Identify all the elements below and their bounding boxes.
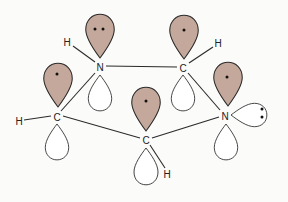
electron-n1-a bbox=[94, 28, 97, 31]
atom-c4: C bbox=[142, 135, 149, 146]
pyrazole-orbital-diagram: N C N C C H H H H bbox=[0, 0, 288, 202]
atom-c5: C bbox=[53, 112, 60, 123]
bond-c2-h2 bbox=[189, 47, 213, 63]
electron-n1-b bbox=[102, 28, 105, 31]
upper-lobe-n1 bbox=[86, 14, 115, 58]
upper-lobe-c5 bbox=[44, 63, 73, 107]
atom-n3: N bbox=[221, 111, 228, 122]
electron-c2 bbox=[183, 29, 186, 32]
electron-n3 bbox=[226, 76, 229, 79]
lower-lobe-c4 bbox=[134, 148, 158, 185]
lone-pair-lobe-n3 bbox=[231, 103, 267, 126]
bond-n3-c4 bbox=[152, 117, 219, 138]
electron-c5 bbox=[56, 73, 59, 76]
electron-c4 bbox=[145, 100, 148, 103]
lower-lobe-c2 bbox=[171, 75, 194, 111]
hydrogen-h2: H bbox=[214, 38, 221, 49]
lower-lobe-c5 bbox=[45, 124, 68, 160]
lone-pair-electron-a bbox=[261, 108, 264, 111]
lone-pair-electron-b bbox=[261, 116, 264, 119]
upper-lobes bbox=[44, 14, 243, 131]
bond-n1-h1 bbox=[73, 46, 95, 62]
upper-lobe-c4 bbox=[132, 87, 161, 131]
lower-lobe-n1 bbox=[88, 75, 111, 111]
atom-n1: N bbox=[96, 62, 103, 73]
bond-c4-c5 bbox=[63, 116, 140, 138]
hydrogen-h4: H bbox=[163, 169, 170, 180]
hydrogen-h5: H bbox=[15, 116, 22, 127]
hydrogen-h1: H bbox=[63, 37, 70, 48]
lower-lobe-n3 bbox=[214, 124, 237, 160]
bond-n1-c2 bbox=[106, 66, 177, 67]
bond-c5-h5 bbox=[24, 116, 51, 120]
atom-c2: C bbox=[179, 63, 186, 74]
upper-lobe-n3 bbox=[214, 62, 243, 106]
upper-lobe-c2 bbox=[170, 15, 199, 59]
